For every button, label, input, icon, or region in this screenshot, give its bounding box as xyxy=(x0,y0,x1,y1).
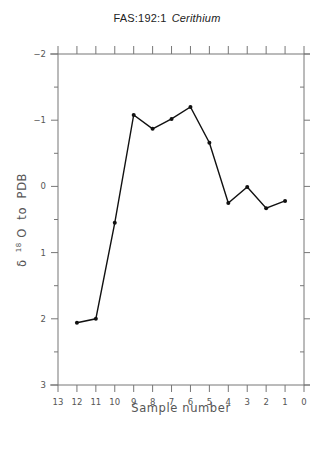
x-tick-label: 12 xyxy=(72,397,83,407)
x-tick-label: 10 xyxy=(109,397,120,407)
data-point xyxy=(264,206,268,210)
y-axis-label-rest: O to PDB xyxy=(15,173,29,238)
data-point xyxy=(94,317,98,321)
data-point xyxy=(132,113,136,117)
x-tick-label: 11 xyxy=(90,397,101,407)
data-point xyxy=(207,141,211,145)
data-series xyxy=(75,105,287,325)
data-point xyxy=(188,105,192,109)
y-axis-label-delta: δ xyxy=(15,259,29,267)
plot-frame xyxy=(50,54,310,385)
data-point xyxy=(170,117,174,121)
x-tick-label: 2 xyxy=(263,397,268,407)
x-tick-label: 1 xyxy=(282,397,287,407)
data-point xyxy=(245,185,249,189)
axis-labels: Sample number δ 18 O to PDB xyxy=(10,173,231,415)
data-point xyxy=(226,201,230,205)
data-point xyxy=(75,321,79,325)
x-tick-label: 3 xyxy=(245,397,250,407)
plot-border xyxy=(58,54,304,385)
y-axis-label: δ 18 O to PDB xyxy=(10,173,29,267)
line-chart: 131211109876543210−2−10123 Sample number… xyxy=(0,0,334,449)
x-tick-label: 13 xyxy=(53,397,64,407)
y-tick-label: 2 xyxy=(41,314,46,324)
y-tick-label: 1 xyxy=(41,248,46,258)
x-tick-label: 0 xyxy=(301,397,306,407)
axis-ticks: 131211109876543210−2−10123 xyxy=(33,46,310,407)
y-tick-label: −1 xyxy=(33,115,46,125)
data-point xyxy=(113,221,117,225)
data-point xyxy=(151,127,155,131)
series-line xyxy=(77,107,285,323)
data-point xyxy=(283,199,287,203)
y-tick-label: −2 xyxy=(33,49,46,59)
x-axis-label: Sample number xyxy=(131,401,230,415)
y-axis-label-superscript: 18 xyxy=(15,242,23,252)
y-tick-label: 3 xyxy=(41,380,46,390)
y-tick-label: 0 xyxy=(41,181,46,191)
